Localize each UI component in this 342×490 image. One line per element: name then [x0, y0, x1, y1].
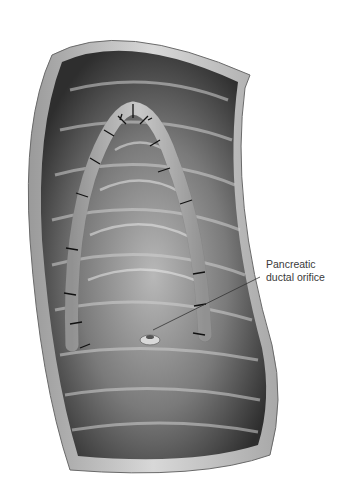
label-pancreatic-ductal-orifice: Pancreatic ductal orifice	[266, 258, 325, 284]
label-line-1: Pancreatic	[266, 258, 325, 271]
anatomical-illustration	[0, 0, 342, 490]
label-line-2: ductal orifice	[266, 271, 325, 284]
